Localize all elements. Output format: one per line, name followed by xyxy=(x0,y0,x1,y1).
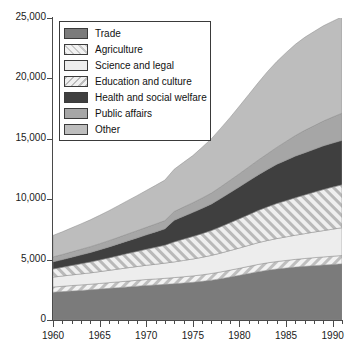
legend-item: Public affairs xyxy=(64,105,206,121)
y-axis-tick-label: 25,000 xyxy=(0,12,46,22)
x-axis-tick-mark-minor xyxy=(221,321,222,324)
legend-item: Health and social welfare xyxy=(64,89,206,105)
x-axis-tick-mark-minor xyxy=(137,321,138,324)
legend-item-label: Trade xyxy=(95,28,121,39)
legend-item-label: Agriculture xyxy=(95,44,143,55)
legend-swatch-icon xyxy=(64,28,88,39)
y-axis-tick-mark xyxy=(47,320,52,321)
legend-item-label: Other xyxy=(95,124,120,135)
x-axis-tick-mark-minor xyxy=(230,321,231,324)
x-axis-tick-label: 1970 xyxy=(126,330,166,341)
x-axis-tick-mark-major xyxy=(193,321,194,327)
legend-swatch-icon xyxy=(64,92,88,103)
x-axis-tick-mark-minor xyxy=(295,321,296,324)
x-axis-tick-mark-minor xyxy=(165,321,166,324)
chart-figure: 05,00010,00015,00020,00025,000 196019651… xyxy=(0,0,359,353)
x-axis-tick-label: 1990 xyxy=(313,330,353,341)
legend-swatch-icon xyxy=(64,124,88,135)
legend-swatch-icon xyxy=(64,76,88,87)
x-axis-tick-mark-minor xyxy=(90,321,91,324)
x-axis-tick-mark-major xyxy=(100,321,101,327)
y-axis-tick-label: 0 xyxy=(0,314,46,324)
y-axis-tick-mark xyxy=(47,260,52,261)
legend-item: Agriculture xyxy=(64,41,206,57)
x-axis-tick-mark-minor xyxy=(174,321,175,324)
y-axis-tick-label: 15,000 xyxy=(0,133,46,143)
y-axis-tick-mark xyxy=(47,18,52,19)
legend-swatch-icon xyxy=(64,108,88,119)
x-axis-tick-mark-minor xyxy=(128,321,129,324)
x-axis-tick-mark-minor xyxy=(202,321,203,324)
x-axis-tick-mark-minor xyxy=(62,321,63,324)
legend-swatch-icon xyxy=(64,44,88,55)
legend-item: Trade xyxy=(64,25,206,41)
x-axis-tick-mark-minor xyxy=(305,321,306,324)
x-axis-tick-mark-major xyxy=(239,321,240,327)
x-axis-tick-mark-major xyxy=(286,321,287,327)
x-axis-tick-mark-minor xyxy=(258,321,259,324)
legend-item: Science and legal xyxy=(64,57,206,73)
legend-item-label: Public affairs xyxy=(95,108,152,119)
x-axis-tick-mark-minor xyxy=(323,321,324,324)
x-axis-tick-label: 1980 xyxy=(219,330,259,341)
x-axis-tick-mark-minor xyxy=(118,321,119,324)
x-axis-tick-mark-minor xyxy=(249,321,250,324)
x-axis-tick-mark-minor xyxy=(267,321,268,324)
chart-legend: TradeAgricultureScience and legalEducati… xyxy=(59,21,211,141)
y-axis-tick-mark xyxy=(47,199,52,200)
legend-item-label: Education and culture xyxy=(95,76,192,87)
legend-item-label: Health and social welfare xyxy=(95,92,207,103)
legend-swatch-icon xyxy=(64,60,88,71)
y-axis-tick-label: 20,000 xyxy=(0,72,46,82)
y-axis-tick-label: 5,000 xyxy=(0,254,46,264)
y-axis-tick-label: 10,000 xyxy=(0,193,46,203)
y-axis-tick-mark xyxy=(47,139,52,140)
y-axis-line xyxy=(52,17,53,321)
x-axis-tick-mark-major xyxy=(53,321,54,327)
x-axis-tick-mark-major xyxy=(146,321,147,327)
x-axis-tick-mark-minor xyxy=(211,321,212,324)
x-axis-tick-mark-minor xyxy=(81,321,82,324)
legend-item: Other xyxy=(64,121,206,137)
x-axis-tick-mark-minor xyxy=(184,321,185,324)
x-axis-line xyxy=(52,320,343,321)
legend-item: Education and culture xyxy=(64,73,206,89)
legend-item-label: Science and legal xyxy=(95,60,174,71)
x-axis-tick-mark-minor xyxy=(109,321,110,324)
x-axis-tick-mark-minor xyxy=(156,321,157,324)
x-axis-tick-mark-major xyxy=(333,321,334,327)
x-axis-tick-label: 1975 xyxy=(173,330,213,341)
x-axis-tick-label: 1985 xyxy=(266,330,306,341)
x-axis-tick-mark-minor xyxy=(314,321,315,324)
x-axis-tick-mark-minor xyxy=(277,321,278,324)
y-axis-tick-mark xyxy=(47,78,52,79)
x-axis-tick-label: 1965 xyxy=(80,330,120,341)
x-axis-tick-label: 1960 xyxy=(33,330,73,341)
x-axis-tick-mark-minor xyxy=(72,321,73,324)
x-axis-tick-mark-minor xyxy=(342,321,343,324)
